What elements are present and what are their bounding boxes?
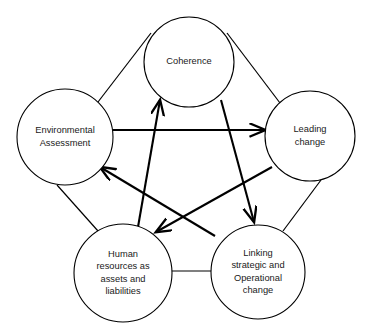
node-layer: CoherenceEnvironmentalAssessmentLeadingc…: [17, 17, 355, 322]
node-label-leading-change: change: [295, 137, 326, 147]
arrow-coherence-to-linking-arrow: [221, 100, 254, 222]
node-leading-change[interactable]: Leadingchange: [265, 91, 355, 181]
node-label-human-resources: resources as: [96, 261, 150, 271]
node-label-human-resources: assets and: [101, 274, 146, 284]
node-label-human-resources: Human: [108, 249, 138, 259]
node-label-linking-strategic-operational: strategic and: [231, 260, 284, 270]
node-label-environmental-assessment: Assessment: [40, 138, 91, 148]
node-label-linking-strategic-operational: Operational: [234, 273, 282, 283]
node-coherence[interactable]: Coherence: [144, 17, 234, 107]
node-linking-strategic-operational[interactable]: Linkingstrategic andOperationalchange: [211, 225, 305, 319]
perimeter-edge-coherence-to-leading: [227, 33, 280, 103]
perimeter-edge-env-to-coherence: [98, 33, 151, 102]
node-environmental-assessment[interactable]: EnvironmentalAssessment: [17, 89, 113, 185]
node-label-linking-strategic-operational: change: [243, 285, 274, 295]
arrow-leading-to-human-arrow: [156, 167, 272, 232]
node-label-linking-strategic-operational: Linking: [243, 248, 272, 258]
diagram-canvas: CoherenceEnvironmentalAssessmentLeadingc…: [0, 0, 372, 329]
perimeter-edge-env-to-human: [57, 185, 98, 231]
node-label-coherence: Coherence: [166, 56, 211, 66]
node-human-resources[interactable]: Humanresources asassets andliabilities: [74, 224, 172, 322]
perimeter-edge-leading-to-linking: [283, 180, 321, 231]
pentagon-diagram: CoherenceEnvironmentalAssessmentLeadingc…: [0, 0, 372, 329]
node-label-human-resources: liabilities: [105, 286, 140, 296]
arrow-edge-layer: [100, 100, 272, 236]
node-label-environmental-assessment: Environmental: [35, 125, 94, 135]
arrow-human-to-coherence-arrow: [138, 100, 160, 227]
node-label-leading-change: Leading: [293, 124, 326, 134]
